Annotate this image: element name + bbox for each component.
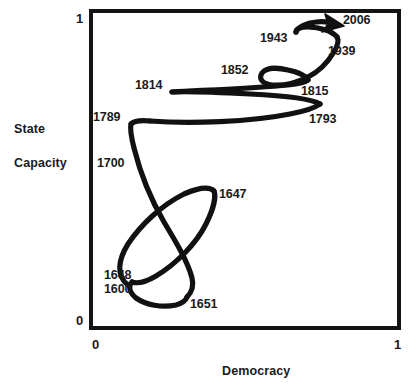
year-annotation-1793: 1793 (309, 112, 336, 126)
y-axis-tick-max: 1 (76, 11, 83, 26)
y-axis-title-line2: Capacity (14, 156, 67, 170)
year-annotation-1648: 1648 (104, 268, 131, 282)
x-axis-tick-min: 0 (92, 337, 99, 352)
year-annotation-2006: 2006 (343, 13, 370, 27)
x-axis-title: Democracy (222, 364, 290, 378)
year-annotation-1789: 1789 (93, 110, 120, 124)
y-axis-title-line1: State (14, 122, 45, 136)
year-annotation-1939: 1939 (328, 44, 355, 58)
year-annotation-1700: 1700 (97, 156, 124, 170)
year-annotation-1647: 1647 (219, 187, 246, 201)
year-annotation-1815: 1815 (301, 84, 328, 98)
x-axis-tick-max: 1 (394, 337, 401, 352)
year-annotation-1600: 1600 (104, 282, 131, 296)
year-annotation-1852: 1852 (221, 63, 248, 77)
year-annotation-1814: 1814 (135, 78, 162, 92)
year-annotation-1651: 1651 (190, 297, 217, 311)
trajectory-plot-canvas (0, 0, 416, 389)
year-annotation-1943: 1943 (260, 31, 287, 45)
y-axis-tick-min: 0 (76, 313, 83, 328)
chart-figure: State Capacity Democracy 1 0 0 1 1600164… (0, 0, 416, 389)
